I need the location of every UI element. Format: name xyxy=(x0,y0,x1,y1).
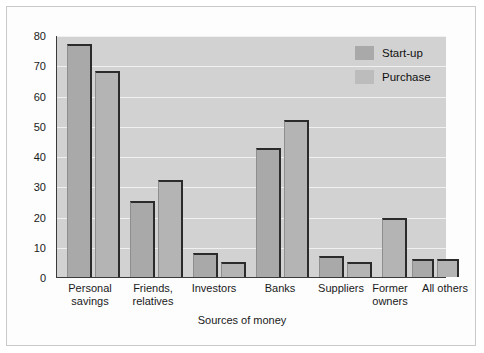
y-tick-label-20: 20 xyxy=(16,212,46,224)
y-tick-label-40: 40 xyxy=(16,151,46,163)
legend-swatch-purchase-icon xyxy=(355,70,374,84)
legend-label-purchase: Purchase xyxy=(382,71,431,83)
legend-item-purchase: Purchase xyxy=(355,69,465,84)
bar-friends-relatives-startup xyxy=(130,201,155,277)
x-axis-title: Sources of money xyxy=(0,314,484,326)
y-tick-label-60: 60 xyxy=(16,91,46,103)
x-tick-label-all-others: All others xyxy=(412,282,478,295)
y-tick-label-80: 80 xyxy=(16,30,46,42)
legend-swatch-startup-icon xyxy=(355,46,374,60)
bar-chart-figure: Percent of businesses 80 70 60 50 40 30 … xyxy=(0,0,484,353)
y-tick-label-10: 10 xyxy=(16,242,46,254)
bar-banks-startup xyxy=(256,148,281,277)
bar-friends-relatives-purchase xyxy=(158,180,183,277)
bar-personal-savings-startup xyxy=(67,44,92,277)
legend-item-startup: Start-up xyxy=(355,45,465,60)
y-tick-label-30: 30 xyxy=(16,181,46,193)
y-tick-label-0: 0 xyxy=(16,272,46,284)
bar-banks-purchase xyxy=(284,120,309,277)
bar-suppliers-purchase xyxy=(347,262,372,277)
gridline-80 xyxy=(57,36,446,37)
bar-all-others-startup xyxy=(412,259,434,277)
bar-investors-startup xyxy=(193,253,218,277)
bar-suppliers-startup xyxy=(319,256,344,277)
bar-former-owners-purchase xyxy=(382,218,407,277)
bar-all-others-purchase xyxy=(437,259,459,277)
bar-personal-savings-purchase xyxy=(95,71,120,277)
chart-legend: Start-up Purchase xyxy=(355,45,465,93)
y-tick-label-50: 50 xyxy=(16,121,46,133)
y-tick-label-70: 70 xyxy=(16,60,46,72)
bar-investors-purchase xyxy=(221,262,246,277)
legend-label-startup: Start-up xyxy=(382,47,423,59)
